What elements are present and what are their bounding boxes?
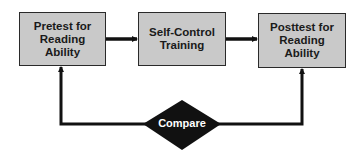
posttest-box: Posttest for Reading Ability: [258, 13, 346, 68]
compare-to-pretest-line: [61, 67, 150, 124]
posttest-label-line: Posttest for: [270, 21, 334, 34]
training-label-line: Training: [149, 39, 215, 52]
posttest-label-line: Reading: [270, 34, 334, 47]
posttest-label-line: Ability: [270, 47, 334, 60]
pretest-label-line: Ability: [34, 46, 92, 59]
compare-to-posttest-line: [214, 69, 302, 124]
pretest-label-line: Reading: [34, 33, 92, 46]
pretest-box: Pretest for Reading Ability: [19, 12, 106, 66]
training-label-line: Self-Control: [149, 26, 215, 39]
training-box: Self-Control Training: [138, 12, 226, 66]
pretest-label-line: Pretest for: [34, 20, 92, 33]
compare-label: Compare: [143, 117, 221, 129]
